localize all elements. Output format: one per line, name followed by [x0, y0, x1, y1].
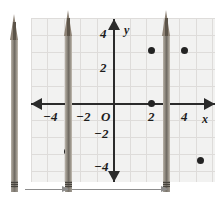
x-tick-label-4: 4 [181, 110, 188, 123]
pencil-ferrule [11, 181, 18, 188]
pencil-middle [64, 10, 73, 194]
y-axis-name-label: y [124, 24, 129, 36]
translation-arrow-2 [72, 189, 167, 190]
y-tick-label-neg4: −4 [94, 160, 108, 173]
grid-line-horizontal [31, 154, 215, 155]
translation-arrow-1 [25, 189, 68, 190]
y-axis [113, 19, 115, 182]
pencil-lead-icon [13, 22, 15, 40]
grid-line-horizontal [31, 171, 215, 172]
x-tick-label-neg4: −4 [43, 110, 57, 123]
data-point [148, 47, 155, 54]
x-axis-right-arrow-icon [204, 98, 215, 110]
pencil-body [11, 40, 18, 181]
grid-line-horizontal [31, 35, 215, 36]
pencil-body [163, 36, 170, 181]
pencil-lead-icon [165, 18, 167, 36]
pencil-lead-icon [67, 18, 69, 36]
grid-line-horizontal [31, 69, 215, 70]
grid-line-vertical [47, 18, 48, 182]
grid-line-vertical [146, 18, 147, 182]
pencil-right [162, 10, 171, 194]
pencil-left [10, 14, 19, 194]
y-axis-up-arrow-icon [108, 19, 120, 30]
x-axis-left-arrow-icon [31, 98, 42, 110]
x-tick-label-neg2: −2 [76, 110, 90, 123]
y-axis-down-arrow-icon [108, 171, 120, 182]
origin-label: O [101, 110, 110, 123]
grid-line-horizontal [31, 86, 215, 87]
x-axis [31, 103, 215, 105]
grid-line-vertical [130, 18, 131, 182]
x-axis-name-label: x [202, 113, 208, 125]
grid-line-vertical [179, 18, 180, 182]
y-tick-label-2: 2 [100, 61, 107, 74]
y-tick-label-4: 4 [100, 27, 107, 40]
pencil-body [65, 36, 72, 181]
x-tick-label-2: 2 [148, 110, 155, 123]
grid-line-vertical [97, 18, 98, 182]
grid-line-horizontal [31, 137, 215, 138]
grid-line-vertical [80, 18, 81, 182]
grid-line-horizontal [31, 18, 215, 19]
graph-plate [31, 18, 215, 182]
data-point [148, 100, 155, 107]
data-point [181, 47, 188, 54]
figure-canvas: −4 −2 2 4 4 2 −2 −4 O y x [0, 0, 223, 198]
data-point [197, 157, 204, 164]
y-tick-label-neg2: −2 [94, 127, 108, 140]
pencil-eraser [11, 188, 18, 192]
